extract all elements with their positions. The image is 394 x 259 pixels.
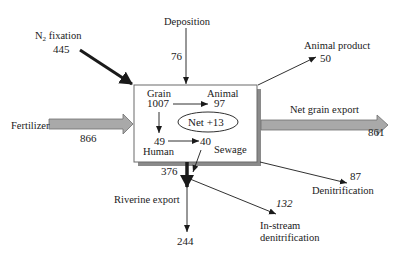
net-grain-export-value: 861 — [368, 127, 385, 138]
n2-fixation-arrow — [80, 50, 132, 84]
sewage-value: 40 — [200, 136, 211, 147]
fertilizer-value: 866 — [80, 133, 97, 144]
animal-product-label: Animal product — [304, 40, 370, 51]
fertilizer-arrow — [49, 114, 133, 134]
net-grain-export-label: Net grain export — [290, 104, 359, 115]
n2-fixation-value: 445 — [53, 44, 70, 55]
deposition-label: Deposition — [164, 16, 210, 27]
human-label: Human — [143, 146, 174, 157]
riverine-inflow-value: 376 — [161, 166, 178, 177]
instream-denitrification-label-1: In-stream — [260, 220, 300, 231]
riverine-export-label: Riverine export — [114, 194, 180, 205]
deposition-value: 76 — [171, 51, 182, 62]
instream-denitrification-value: 132 — [276, 198, 293, 209]
instream-denitrification-arrow — [190, 179, 276, 214]
animal-product-arrow — [258, 57, 316, 85]
denitrification-value: 87 — [350, 171, 361, 182]
net-label: Net +13 — [188, 117, 224, 128]
animal-product-value: 50 — [320, 53, 331, 64]
denitrification-arrow — [260, 162, 347, 183]
sewage-label: Sewage — [214, 144, 247, 155]
instream-denitrification-label-2: denitrification — [260, 232, 319, 243]
fertilizer-label: Fertilizer — [11, 120, 49, 131]
riverine-export-value: 244 — [177, 236, 194, 247]
grain-value: 1007 — [147, 98, 169, 109]
animal-value: 97 — [214, 98, 225, 109]
denitrification-label: Denitrification — [312, 185, 374, 196]
